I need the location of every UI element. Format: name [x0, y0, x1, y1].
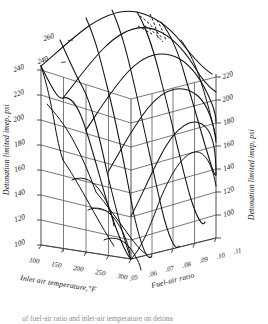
- temp-tick-300: 300: [116, 272, 129, 281]
- left-tick-240: 240: [12, 62, 26, 74]
- fa-tick-010: .10: [216, 251, 227, 260]
- right-tick-160: 160: [222, 138, 236, 150]
- mesh-interior-strands: [41, 66, 146, 270]
- mesh-hidden-dashed: [138, 14, 166, 42]
- left-tick-200: 200: [12, 112, 26, 124]
- temp-tick-100: 100: [29, 256, 41, 265]
- right-tick-200: 200: [221, 92, 235, 104]
- right-tick-120: 120: [222, 184, 236, 196]
- left-axis-tick-labels: 240 220 200 180 160 140 120 100 260 240: [12, 31, 56, 249]
- left-axis-title: Detonation limited imep, psi: [2, 104, 11, 196]
- temp-tick-250: 250: [95, 268, 107, 277]
- fa-tick-005: .05: [129, 273, 140, 282]
- surface-plot-svg: 240 220 200 180 160 140 120 100 260 240 …: [0, 0, 268, 324]
- right-tick-180: 180: [222, 115, 236, 127]
- figure-caption: of fuel-air ratio and inlet-air temperat…: [22, 314, 174, 323]
- right-tick-100: 100: [222, 207, 236, 219]
- mesh-constant-temperature: [41, 11, 216, 259]
- fa-tick-008: .08: [182, 260, 193, 269]
- fa-tick-006: .06: [148, 269, 159, 278]
- fa-tick-007: .07: [165, 264, 176, 273]
- axis-frame: [41, 66, 216, 259]
- upper-tick-260: 260: [42, 31, 56, 43]
- mesh-constant-fuel-air: [41, 10, 216, 259]
- upper-tick-240: 240: [36, 54, 50, 66]
- left-tick-120: 120: [13, 212, 27, 224]
- right-tick-220: 220: [221, 69, 235, 81]
- temp-tick-150: 150: [51, 260, 63, 269]
- left-tick-140: 140: [13, 187, 27, 199]
- right-tick-140: 140: [222, 161, 236, 173]
- left-tick-160: 160: [13, 162, 27, 174]
- right-axis-title: Detonation limited imep, psi: [247, 129, 256, 221]
- fa-tick-009: .09: [199, 255, 210, 264]
- temp-tick-200: 200: [73, 264, 85, 273]
- left-tick-180: 180: [13, 137, 27, 149]
- right-axis-tick-labels: 220 200 180 160 140 120 100: [221, 69, 236, 219]
- left-tick-220: 220: [12, 87, 26, 99]
- fa-tick-011: .11: [233, 246, 242, 255]
- temperature-axis-title: Inlet air temperature,°F: [19, 273, 97, 294]
- figure-3d-surface-plot: 240 220 200 180 160 140 120 100 260 240 …: [0, 0, 268, 324]
- left-tick-100: 100: [13, 237, 27, 249]
